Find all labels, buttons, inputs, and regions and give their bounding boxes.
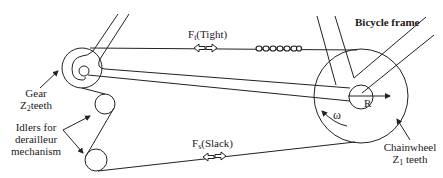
gear-teeth-symbol: Z xyxy=(20,99,27,111)
gear-label-line1: Gear xyxy=(18,88,54,99)
chainstay-upper xyxy=(105,69,350,88)
chainwheel-teeth-word: teeth xyxy=(406,153,427,165)
gear-axle xyxy=(79,66,89,76)
rear-gear xyxy=(62,48,102,88)
slack-force-desc: (Slack) xyxy=(201,137,233,149)
slack-force-arrows xyxy=(203,152,226,161)
chainstay-lower xyxy=(88,75,350,101)
gear-label: Gear Z2teeth xyxy=(18,88,54,111)
seat-tube-1 xyxy=(317,16,336,85)
idler-arrow-lower xyxy=(63,130,83,153)
slack-force-label: Fs(Slack) xyxy=(192,138,233,149)
tight-force-arrows xyxy=(194,44,217,52)
chainwheel-label: Chainwheel Z1 teeth xyxy=(377,142,443,165)
chain-links xyxy=(256,46,302,51)
gear-to-idler-chain xyxy=(82,88,105,94)
gear-label-arrow xyxy=(40,71,58,88)
rear-stay-1 xyxy=(93,14,118,51)
idler-chain-link xyxy=(86,108,114,156)
bicycle-frame-label: Bicycle frame xyxy=(355,17,419,28)
chainwheel-label-arrow xyxy=(397,119,410,140)
tight-force-desc: (Tight) xyxy=(196,28,227,40)
down-tube-2 xyxy=(362,35,434,93)
rear-stay-2 xyxy=(100,14,129,59)
idlers-label-line3: mechanism xyxy=(6,145,66,157)
tight-chain xyxy=(90,48,357,50)
chainwheel-label-line1: Chainwheel xyxy=(377,142,443,153)
idlers-label: Idlers for derailleur mechanism xyxy=(6,121,66,157)
radius-label: R xyxy=(364,98,371,109)
chainwheel-teeth-subscript: 1 xyxy=(399,158,403,167)
gear-label-line2: Z2teeth xyxy=(18,100,54,111)
idler-arrow-upper xyxy=(63,116,90,130)
seat-tube-2 xyxy=(335,16,354,78)
chainwheel-label-line2: Z1 teeth xyxy=(377,154,443,165)
gear-teeth-word: teeth xyxy=(31,99,52,111)
idlers-label-line1: Idlers for xyxy=(6,121,66,133)
omega-label: ω xyxy=(333,110,341,121)
tight-force-label: Ft(Tight) xyxy=(188,29,227,40)
idlers-label-line2: derailleur xyxy=(6,133,66,145)
